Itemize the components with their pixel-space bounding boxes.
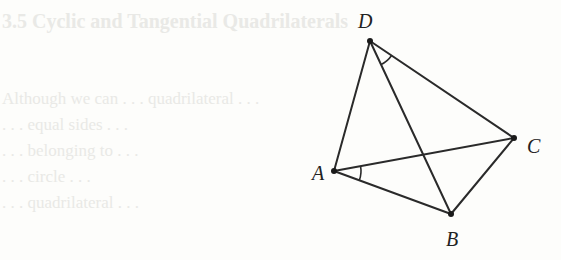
point-b xyxy=(448,211,454,217)
point-d xyxy=(367,38,373,44)
quadrilateral-diagram: ABCD xyxy=(0,0,561,260)
point-a xyxy=(331,168,337,174)
segment-da xyxy=(334,41,370,171)
segment-dc xyxy=(370,41,514,138)
point-c xyxy=(511,135,517,141)
label-d: D xyxy=(357,10,373,32)
segment-ac xyxy=(334,138,514,171)
angle-arc-a xyxy=(359,166,361,180)
vertices xyxy=(331,38,517,217)
segment-bc xyxy=(451,138,514,214)
label-c: C xyxy=(527,135,541,157)
label-b: B xyxy=(446,228,458,250)
angle-arc-d xyxy=(381,56,392,65)
label-a: A xyxy=(310,162,325,184)
segments xyxy=(334,41,514,214)
